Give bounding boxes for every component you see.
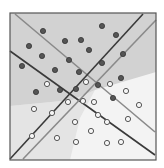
hollow-point: [65, 99, 70, 104]
filled-point: [66, 57, 71, 62]
hollow-point: [73, 139, 78, 144]
hollow-point: [123, 88, 128, 93]
filled-point: [86, 47, 91, 52]
filled-point: [99, 60, 104, 65]
filled-point: [76, 69, 81, 74]
filled-point: [78, 37, 83, 42]
filled-point: [40, 28, 45, 33]
hollow-point: [125, 116, 130, 121]
hollow-point: [136, 102, 141, 107]
filled-point: [33, 89, 38, 94]
hollow-point: [91, 99, 96, 104]
hollow-point: [80, 98, 85, 103]
hollow-point: [31, 106, 36, 111]
hollow-point: [44, 81, 49, 86]
hollow-point: [107, 81, 112, 86]
filled-point: [57, 87, 62, 92]
filled-point: [73, 86, 78, 91]
hollow-point: [118, 139, 123, 144]
filled-point: [113, 32, 118, 37]
filled-point: [110, 95, 115, 100]
filled-point: [52, 67, 57, 72]
hollow-point: [29, 133, 34, 138]
hollow-point: [83, 79, 88, 84]
filled-point: [19, 63, 24, 68]
filled-point: [95, 82, 100, 87]
hollow-point: [54, 135, 59, 140]
filled-point: [39, 53, 44, 58]
filled-point: [62, 38, 67, 43]
filled-point: [26, 43, 31, 48]
filled-point: [118, 75, 123, 80]
filled-point: [120, 51, 125, 56]
decision-boundary-diagram: [0, 0, 164, 168]
filled-point: [99, 23, 104, 28]
hollow-point: [104, 140, 109, 145]
hollow-point: [49, 110, 54, 115]
hollow-point: [72, 119, 77, 124]
hollow-point: [88, 128, 93, 133]
hollow-point: [104, 119, 109, 124]
hollow-point: [95, 112, 100, 117]
